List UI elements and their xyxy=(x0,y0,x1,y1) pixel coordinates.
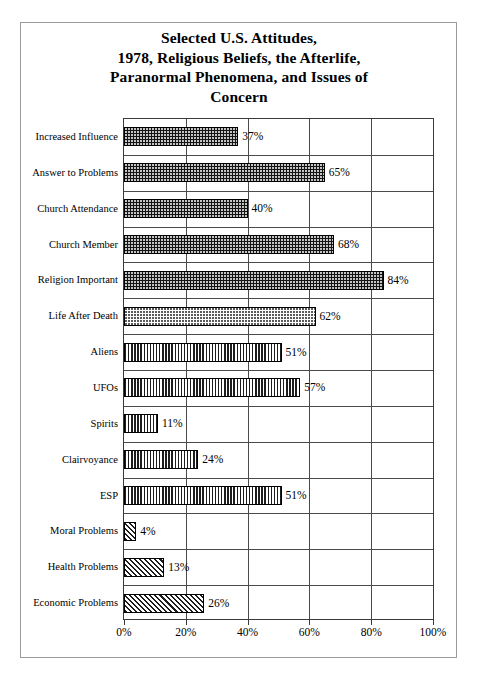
x-axis-tick xyxy=(124,620,125,625)
chart-title: Selected U.S. Attitudes, 1978, Religious… xyxy=(49,28,429,106)
chart-row: Religion Important84% xyxy=(124,262,433,298)
category-label: Moral Problems xyxy=(50,513,118,549)
x-axis: 0%20%40%60%80%100% xyxy=(123,620,434,654)
chart-row: Increased Influence37% xyxy=(124,119,433,155)
x-axis-tick-label: 100% xyxy=(420,626,447,638)
bar-value-label: 4% xyxy=(140,522,155,541)
category-label: Answer to Problems xyxy=(32,155,118,191)
bar xyxy=(124,271,384,290)
category-label: UFOs xyxy=(93,370,118,406)
chart-figure: Selected U.S. Attitudes, 1978, Religious… xyxy=(20,22,457,658)
bar-value-label: 11% xyxy=(162,414,183,433)
x-axis-tick xyxy=(186,620,187,625)
bar xyxy=(124,522,136,541)
category-label: Aliens xyxy=(91,334,118,370)
chart-row: Clairvoyance24% xyxy=(124,442,433,478)
category-label: Clairvoyance xyxy=(62,442,118,478)
bar xyxy=(124,486,282,505)
chart-row: Church Attendance40% xyxy=(124,191,433,227)
bar-value-label: 51% xyxy=(286,343,307,362)
x-axis-tick-label: 0% xyxy=(116,626,131,638)
bar-value-label: 51% xyxy=(286,486,307,505)
chart-title-line-4: Concern xyxy=(49,87,429,107)
chart-row: Health Problems13% xyxy=(124,549,433,585)
plot-area: Increased Influence37%Answer to Problems… xyxy=(123,118,434,620)
bar-value-label: 40% xyxy=(252,199,273,218)
bar-value-label: 13% xyxy=(168,558,189,577)
category-label: Health Problems xyxy=(48,549,118,585)
x-axis-tick-label: 80% xyxy=(361,626,382,638)
bar xyxy=(124,127,238,146)
bar xyxy=(124,594,204,613)
bar xyxy=(124,307,316,326)
category-label: Church Attendance xyxy=(37,191,118,227)
chart-row: Life After Death62% xyxy=(124,298,433,334)
x-axis-tick xyxy=(248,620,249,625)
bar xyxy=(124,163,325,182)
x-axis-tick xyxy=(433,620,434,625)
x-axis-tick-label: 60% xyxy=(299,626,320,638)
category-label: Religion Important xyxy=(38,262,118,298)
bar-value-label: 84% xyxy=(388,271,409,290)
x-axis-tick-label: 40% xyxy=(237,626,258,638)
bar xyxy=(124,378,300,397)
chart-row: Aliens51% xyxy=(124,334,433,370)
chart-title-line-1: Selected U.S. Attitudes, xyxy=(49,28,429,48)
chart-row: Moral Problems4% xyxy=(124,513,433,549)
category-label: Spirits xyxy=(91,406,118,442)
bar xyxy=(124,450,198,469)
chart-row: Spirits11% xyxy=(124,406,433,442)
category-label: Life After Death xyxy=(49,298,118,334)
bar xyxy=(124,414,158,433)
bar xyxy=(124,558,164,577)
bar-value-label: 24% xyxy=(202,450,223,469)
bar-value-label: 62% xyxy=(320,307,341,326)
bar-value-label: 68% xyxy=(338,235,359,254)
x-axis-tick-label: 20% xyxy=(175,626,196,638)
bar xyxy=(124,343,282,362)
category-label: Economic Problems xyxy=(33,585,118,621)
bar-value-label: 37% xyxy=(242,127,263,146)
bar xyxy=(124,199,248,218)
chart-title-line-3: Paranormal Phenomena, and Issues of xyxy=(49,67,429,87)
chart-row: Answer to Problems65% xyxy=(124,155,433,191)
category-label: Church Member xyxy=(49,227,118,263)
chart-row: ESP51% xyxy=(124,478,433,514)
category-label: Increased Influence xyxy=(36,119,119,155)
chart-row: UFOs57% xyxy=(124,370,433,406)
bar xyxy=(124,235,334,254)
chart-row: Church Member68% xyxy=(124,227,433,263)
chart-row: Economic Problems26% xyxy=(124,585,433,621)
category-label: ESP xyxy=(100,478,118,514)
bar-value-label: 65% xyxy=(329,163,350,182)
chart-title-line-2: 1978, Religious Beliefs, the Afterlife, xyxy=(49,48,429,68)
x-axis-tick xyxy=(309,620,310,625)
x-axis-tick xyxy=(371,620,372,625)
bar-value-label: 57% xyxy=(304,378,325,397)
bar-value-label: 26% xyxy=(208,594,229,613)
